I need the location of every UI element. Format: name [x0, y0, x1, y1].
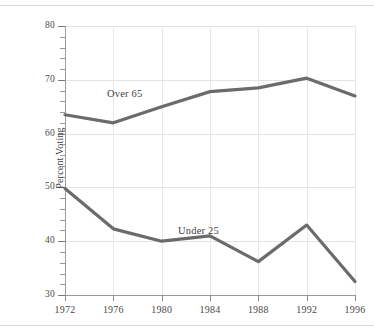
y-tick-label-30: 30	[31, 289, 55, 299]
figure-canvas: Percent Voting 807060504030 197219761980…	[0, 0, 374, 334]
y-tick-30	[58, 295, 65, 296]
gridline-x-1996	[355, 26, 356, 295]
bottom-divider-rule	[0, 325, 374, 326]
series-label-under-25: Under 25	[178, 225, 219, 236]
x-tick-1996	[355, 295, 356, 301]
y-tick-label-70: 70	[31, 74, 55, 84]
x-tick-label-1972: 1972	[43, 304, 87, 315]
x-tick-label-1992: 1992	[285, 304, 329, 315]
top-divider-rule	[0, 5, 374, 6]
y-tick-label-60: 60	[31, 128, 55, 138]
series-lines	[65, 26, 355, 295]
x-tick-label-1984: 1984	[188, 304, 232, 315]
y-axis-title: Percent Voting	[54, 127, 65, 189]
series-label-over-65: Over 65	[107, 88, 143, 99]
y-tick-label-40: 40	[31, 235, 55, 245]
y-tick-label-80: 80	[31, 20, 55, 30]
x-tick-label-1988: 1988	[236, 304, 280, 315]
x-tick-1980	[162, 295, 163, 301]
y-tick-label-50: 50	[31, 181, 55, 191]
plot-area: Percent Voting 807060504030 197219761980…	[65, 26, 355, 295]
y-tick-70	[58, 80, 65, 81]
x-tick-1972	[65, 295, 66, 301]
line-series-over-65	[65, 78, 355, 123]
x-tick-label-1996: 1996	[333, 304, 374, 315]
x-tick-1984	[210, 295, 211, 301]
x-tick-1976	[113, 295, 114, 301]
x-tick-1992	[307, 295, 308, 301]
y-tick-80	[58, 26, 65, 27]
x-tick-label-1976: 1976	[91, 304, 135, 315]
x-tick-1988	[258, 295, 259, 301]
y-tick-40	[58, 241, 65, 242]
x-tick-label-1980: 1980	[140, 304, 184, 315]
